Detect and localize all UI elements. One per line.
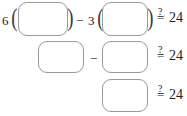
open-paren-1: ( <box>11 5 17 31</box>
relation-row-1: ? = 24 <box>157 9 183 27</box>
right-hand-side-row3: 24 <box>169 88 183 102</box>
math-worksheet: 6 ( ) − 3 ( ) ? = 24 − ? = 24 <box>0 0 187 116</box>
answer-box-row3[interactable] <box>102 79 148 112</box>
question-equals-icon-row3: ? = <box>157 86 167 104</box>
right-hand-side-row2: 24 <box>169 49 183 63</box>
close-paren-1: ) <box>67 5 73 31</box>
equals-sign-row1: = <box>157 11 164 24</box>
minus-operator-row1: − <box>76 14 83 27</box>
equals-sign-row2: = <box>157 49 164 62</box>
relation-row-3: ? = 24 <box>157 86 183 104</box>
expression-row-1: 6 ( ) − 3 ( ) ? = 24 <box>0 0 187 38</box>
equals-sign-row3: = <box>157 88 164 101</box>
question-equals-icon-row1: ? = <box>157 9 167 27</box>
answer-box-row2-right[interactable] <box>102 41 148 73</box>
minus-operator-row2: − <box>90 52 97 65</box>
relation-row-2: ? = 24 <box>157 47 183 65</box>
expression-row-2: − ? = 24 <box>0 38 187 76</box>
coefficient-6-label: 6 <box>2 14 9 27</box>
right-hand-side-row1: 24 <box>169 11 183 25</box>
question-equals-icon-row2: ? = <box>157 47 167 65</box>
expression-row-3: ? = 24 <box>0 76 187 114</box>
answer-box-row1-left[interactable] <box>18 2 68 36</box>
answer-box-row1-right[interactable] <box>102 2 148 36</box>
coefficient-3-label: 3 <box>88 14 95 27</box>
answer-box-row2-left[interactable] <box>38 41 84 73</box>
close-paren-2: ) <box>147 5 153 31</box>
